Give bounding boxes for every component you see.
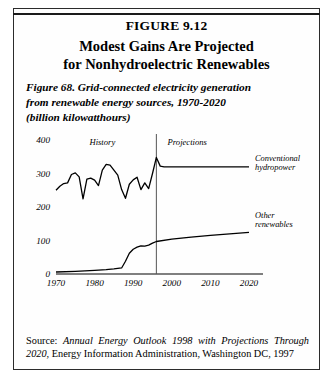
source-publication-title: Annual Energy Outlook 1998 with Projecti… bbox=[63, 335, 268, 346]
y-axis-tick-300: 300 bbox=[35, 169, 50, 179]
figure-headline: Modest Gains Are Projected for Nonhydroe… bbox=[22, 38, 311, 73]
subtitle-line-2: from renewable energy sources, 1970-2020 bbox=[26, 95, 307, 110]
series-inline-labels: ConventionalhydropowerOtherrenewables bbox=[255, 154, 301, 230]
series-line-conventional-hydropower bbox=[56, 158, 249, 200]
series-label-conventional-hydropower: Conventional bbox=[255, 154, 301, 163]
annotation-history: History bbox=[88, 137, 115, 147]
headline-line-1: Modest Gains Are Projected bbox=[22, 38, 311, 56]
figure-subtitle: Figure 68. Grid-connected electricity ge… bbox=[26, 80, 307, 124]
source-prefix: Source: bbox=[26, 335, 63, 346]
y-axis-tick-200: 200 bbox=[36, 203, 50, 213]
line-chart-svg: 0100200300400 197019801990200020102020 H… bbox=[14, 126, 319, 308]
series-label-conventional-hydropower-line2: hydropower bbox=[255, 163, 296, 172]
x-axis-tick-1980: 1980 bbox=[85, 278, 104, 288]
series-line-other-renewables bbox=[56, 233, 249, 273]
series-label-other-renewables: Other bbox=[255, 212, 275, 221]
x-axis-tick-2000: 2000 bbox=[163, 278, 182, 288]
subtitle-line-1: Figure 68. Grid-connected electricity ge… bbox=[26, 80, 307, 95]
annotation-projections: Projections bbox=[167, 137, 208, 147]
x-axis-tick-2010: 2010 bbox=[201, 278, 220, 288]
series-label-other-renewables-line2: renewables bbox=[255, 221, 293, 230]
source-publisher: , Energy Information Administration, Was… bbox=[47, 348, 294, 359]
y-axis-tick-400: 400 bbox=[36, 136, 50, 146]
chart-plot-area: 0100200300400 197019801990200020102020 H… bbox=[14, 126, 319, 308]
x-axis-tick-2020: 2020 bbox=[240, 278, 259, 288]
figure-number-label: FIGURE 9.12 bbox=[13, 13, 320, 34]
x-axis-tick-labels: 197019801990200020102020 bbox=[47, 278, 259, 288]
era-annotations: HistoryProjections bbox=[88, 137, 207, 147]
y-axis-tick-100: 100 bbox=[36, 236, 50, 246]
source-note: Source: Annual Energy Outlook 1998 with … bbox=[26, 334, 309, 361]
subtitle-line-3: (billion kilowatthours) bbox=[26, 110, 307, 125]
y-axis-tick-labels: 0100200300400 bbox=[35, 136, 50, 280]
x-axis-tick-1990: 1990 bbox=[124, 278, 143, 288]
x-axis-tick-1970: 1970 bbox=[47, 278, 66, 288]
headline-line-2: for Nonhydroelectric Renewables bbox=[22, 56, 311, 74]
figure-frame: FIGURE 9.12 Modest Gains Are Projected f… bbox=[13, 8, 320, 370]
